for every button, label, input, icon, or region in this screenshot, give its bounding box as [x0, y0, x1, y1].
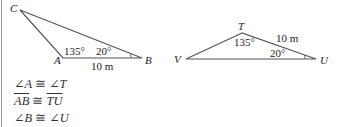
congruent-symbol: ≅ — [35, 111, 46, 125]
statement-left: ∠A — [14, 77, 32, 91]
vertex-v-label: V — [174, 53, 182, 65]
statement-right: ∠T — [49, 77, 66, 91]
triangle-abc: C A B 135° 20° 10 m — [10, 2, 152, 72]
congruent-symbol: ≅ — [35, 77, 46, 91]
angle-a-label: 135° — [64, 45, 85, 57]
vertex-u-label: U — [320, 54, 329, 66]
angle-u-label: 20° — [270, 47, 285, 59]
statement-left: AB — [14, 94, 29, 108]
angle-b-arc — [131, 54, 132, 58]
vertex-a-label: A — [53, 54, 61, 66]
statement-segment-ab-tu: AB ≅ TU — [14, 93, 63, 109]
side-ab-label: 10 m — [91, 60, 114, 72]
statement-right: ∠U — [49, 111, 69, 125]
congruent-symbol: ≅ — [32, 94, 43, 108]
triangle-tvu: T V U 135° 10 m 20° — [174, 20, 329, 66]
vertex-b-label: B — [145, 54, 152, 66]
angle-b-label: 20° — [96, 45, 111, 57]
statement-right: TU — [47, 94, 63, 108]
angle-t-label: 135° — [234, 36, 255, 48]
side-tu-label: 10 m — [276, 32, 299, 44]
statement-angle-a-t: ∠A ≅ ∠T — [14, 76, 67, 92]
statement-left: ∠B — [14, 111, 32, 125]
statement-angle-b-u: ∠B ≅ ∠U — [14, 110, 69, 126]
vertex-t-label: T — [238, 20, 245, 32]
vertex-c-label: C — [10, 2, 18, 14]
